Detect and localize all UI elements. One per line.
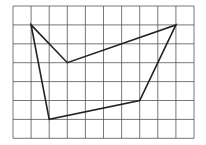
grid-diagram — [0, 0, 206, 145]
